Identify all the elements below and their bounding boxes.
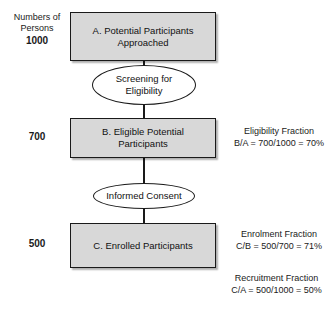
connector-b-to-consent: [143, 156, 145, 185]
recruitment-fraction-title: Recruitment Fraction: [217, 273, 336, 285]
node-a-potential-participants: A. Potential Participants Approached: [70, 12, 216, 61]
node-c-label: C. Enrolled Participants: [89, 240, 196, 252]
node-b-label: B. Eligible Potential Participants: [98, 126, 188, 150]
node-screening-label: Screening for Eligibility: [116, 73, 173, 97]
annotation-eligibility-fraction: Eligibility Fraction B/A = 700/1000 = 70…: [222, 126, 336, 149]
recruitment-fraction-formula: C/A = 500/1000 = 50%: [217, 285, 336, 297]
count-label-1000: 1000: [6, 35, 68, 47]
count-label-500: 500: [6, 238, 68, 249]
left-axis-header-line1: Numbers of: [14, 12, 61, 22]
left-axis-header: Numbers of Persons 1000: [6, 12, 68, 47]
eligibility-fraction-formula: B/A = 700/1000 = 70%: [222, 138, 336, 150]
node-c-enrolled-participants: C. Enrolled Participants: [70, 223, 216, 268]
count-label-700: 700: [6, 131, 68, 142]
enrolment-fraction-title: Enrolment Fraction: [222, 229, 336, 241]
node-b-eligible-potential-participants: B. Eligible Potential Participants: [70, 118, 216, 158]
annotation-enrolment-fraction: Enrolment Fraction C/B = 500/700 = 71%: [222, 229, 336, 252]
flowchart-canvas: Numbers of Persons 1000 700 500 A. Poten…: [0, 0, 336, 312]
node-consent-label: Informed Consent: [106, 190, 182, 202]
annotation-recruitment-fraction: Recruitment Fraction C/A = 500/1000 = 50…: [217, 273, 336, 296]
left-axis-header-line2: Persons: [20, 23, 53, 33]
node-screening-for-eligibility: Screening for Eligibility: [92, 65, 196, 105]
node-a-label: A. Potential Participants Approached: [89, 25, 198, 49]
eligibility-fraction-title: Eligibility Fraction: [222, 126, 336, 138]
node-informed-consent: Informed Consent: [93, 183, 195, 209]
enrolment-fraction-formula: C/B = 500/700 = 71%: [222, 241, 336, 253]
